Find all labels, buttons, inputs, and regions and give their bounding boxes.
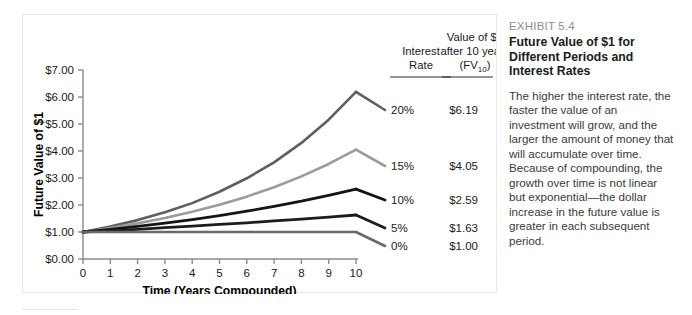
x-tick-label: 10: [350, 267, 363, 279]
legend-value-3: $1.63: [449, 222, 478, 234]
x-tick-label: 1: [107, 267, 113, 279]
x-tick-label: 7: [271, 267, 277, 279]
legend-rate-2: 10%: [391, 194, 414, 206]
legend-col1-header-line1: Interest: [402, 45, 441, 57]
bottom-rule: [22, 309, 78, 310]
leader-line-5pct: [356, 215, 385, 228]
x-axis-title: Time (Years Compounded): [142, 284, 296, 294]
x-tick-label: 9: [325, 267, 331, 279]
exhibit-label: EXHIBIT 5.4: [509, 20, 674, 32]
chart-axes: [78, 70, 493, 264]
legend-value-2: $2.59: [449, 194, 478, 206]
y-tick-label: $5.00: [45, 118, 74, 130]
x-tick-label: 8: [298, 267, 304, 279]
x-tick-label: 2: [134, 267, 140, 279]
y-tick-label: $0.00: [45, 253, 74, 265]
legend-col2-header-line3: (FV10): [460, 59, 491, 74]
future-value-line-chart: $0.00$1.00$2.00$3.00$4.00$5.00$6.00$7.00…: [23, 15, 497, 294]
y-tick-label: $4.00: [45, 145, 74, 157]
panel-divider: [496, 14, 497, 293]
chart-series-group: [83, 92, 385, 246]
legend-col1-header-line2: Rate: [409, 59, 433, 71]
legend-value-0: $6.19: [449, 104, 478, 116]
y-tick-label: $6.00: [45, 91, 74, 103]
legend-rate-0: 20%: [391, 104, 414, 116]
leader-line-15pct: [356, 150, 385, 166]
legend-rate-4: 0%: [391, 240, 408, 252]
chart-text-layer: $0.00$1.00$2.00$3.00$4.00$5.00$6.00$7.00…: [32, 31, 497, 294]
legend-rate-3: 5%: [391, 222, 408, 234]
x-tick-label: 0: [80, 267, 86, 279]
exhibit-body-text: The higher the interest rate, the faster…: [509, 89, 674, 249]
x-tick-label: 4: [189, 267, 196, 279]
x-tick-label: 5: [216, 267, 222, 279]
exhibit-title: Future Value of $1 for Different Periods…: [509, 35, 674, 79]
y-axis-title: Future Value of $1: [32, 112, 46, 217]
fv-main: (FV: [460, 59, 479, 71]
y-tick-label: $1.00: [45, 226, 74, 238]
x-tick-label: 3: [162, 267, 168, 279]
y-tick-label: $7.00: [45, 64, 74, 76]
legend-rate-1: 15%: [391, 160, 414, 172]
series-line-20pct: [83, 92, 356, 232]
exhibit-figure: $0.00$1.00$2.00$3.00$4.00$5.00$6.00$7.00…: [0, 0, 692, 315]
fv-tail: ): [487, 59, 491, 71]
x-tick-label: 6: [244, 267, 250, 279]
y-tick-label: $2.00: [45, 199, 74, 211]
exhibit-text-panel: EXHIBIT 5.4 Future Value of $1 for Diffe…: [509, 20, 674, 290]
chart-panel: $0.00$1.00$2.00$3.00$4.00$5.00$6.00$7.00…: [22, 14, 496, 293]
leader-line-10pct: [356, 189, 385, 200]
legend-col2-header-line2: after 10 years: [440, 45, 497, 57]
leader-line-0pct: [356, 232, 385, 246]
y-tick-label: $3.00: [45, 172, 74, 184]
leader-line-20pct: [356, 92, 385, 110]
legend-value-1: $4.05: [449, 160, 478, 172]
legend-col2-header-line1: Value of $1: [447, 31, 497, 43]
legend-value-4: $1.00: [449, 240, 478, 252]
